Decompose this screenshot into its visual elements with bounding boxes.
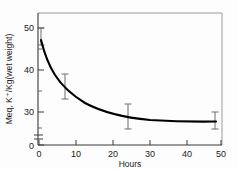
- x-tick-label-40: 40: [182, 149, 192, 159]
- y-tick-label-40: 40: [24, 65, 34, 75]
- x-axis-title: Hours: [119, 159, 142, 169]
- y-tick-label-50: 50: [24, 23, 34, 33]
- x-tick-label-10: 10: [71, 149, 81, 159]
- y-tick-label-30: 30: [24, 107, 34, 117]
- chart-figure: 50 40 30 0 0 10 20 30 40 50 Hours Meq, K…: [0, 0, 238, 169]
- chart-background: [0, 0, 238, 169]
- x-tick-label-0: 0: [36, 149, 41, 159]
- y-tick-label-0: 0: [29, 141, 34, 151]
- y-axis-title: Meq, K⁺/Kg(wet weight): [4, 34, 14, 125]
- x-tick-label-30: 30: [145, 149, 155, 159]
- potassium-decay-chart: 50 40 30 0 0 10 20 30 40 50 Hours Meq, K…: [0, 0, 238, 169]
- x-tick-label-20: 20: [108, 149, 118, 159]
- x-tick-label-50: 50: [216, 149, 226, 159]
